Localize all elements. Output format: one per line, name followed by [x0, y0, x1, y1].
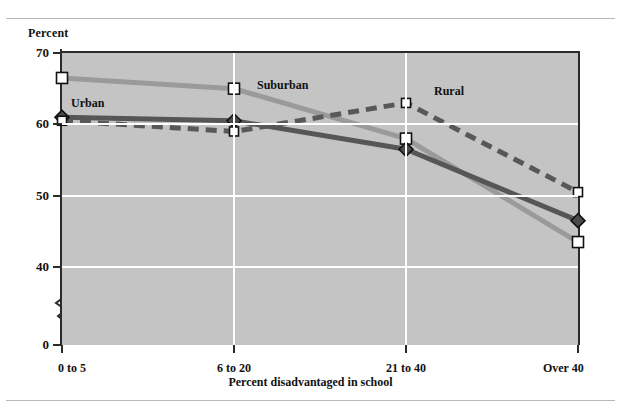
cropped-title-remnant	[150, 0, 490, 7]
series-line-suburban	[62, 78, 578, 242]
data-point-marker-suburban	[573, 237, 584, 248]
y-axis-tick-label: 70	[36, 45, 49, 61]
y-axis-tick	[53, 52, 62, 54]
series-line-urban	[62, 117, 578, 220]
x-axis-tick-label: 0 to 5	[58, 361, 86, 376]
data-point-marker-urban	[571, 214, 585, 228]
x-axis-title: Percent disadvantaged in school	[0, 375, 621, 390]
series-layer	[62, 53, 578, 345]
x-axis-tick	[233, 345, 235, 353]
gridline-horizontal	[62, 195, 578, 197]
series-label-suburban: Suburban	[257, 78, 308, 93]
y-axis-tick-label: 60	[36, 116, 49, 132]
figure-bottom-rule	[6, 400, 615, 401]
plot-area: 0405060700 to 56 to 2021 to 40Over 40	[62, 51, 580, 345]
gridline-horizontal	[62, 123, 578, 125]
x-axis-tick-label: Over 40	[543, 361, 584, 376]
y-axis-tick	[53, 266, 62, 268]
gridline-vertical	[233, 53, 235, 345]
y-axis-tick-label: 40	[36, 259, 49, 275]
y-axis-tick	[53, 195, 62, 197]
series-label-rural: Rural	[434, 84, 464, 99]
y-axis-tick-label: 0	[43, 337, 50, 353]
gridline-vertical	[405, 53, 407, 345]
x-axis-tick	[61, 345, 63, 353]
y-axis-tick-label: 50	[36, 188, 49, 204]
y-axis-tick	[53, 123, 62, 125]
chart-figure: Percent 0405060700 to 56 to 2021 to 40Ov…	[0, 0, 621, 411]
series-label-urban: Urban	[71, 96, 104, 111]
x-axis-tick-label: 21 to 40	[386, 361, 426, 376]
y-axis-title: Percent	[28, 26, 69, 41]
x-axis-tick-label: 6 to 20	[217, 361, 251, 376]
x-axis-tick	[577, 345, 579, 353]
x-axis-tick	[405, 345, 407, 353]
gridline-horizontal	[62, 266, 578, 268]
figure-top-rule	[6, 18, 615, 19]
data-point-marker-suburban	[57, 72, 68, 83]
